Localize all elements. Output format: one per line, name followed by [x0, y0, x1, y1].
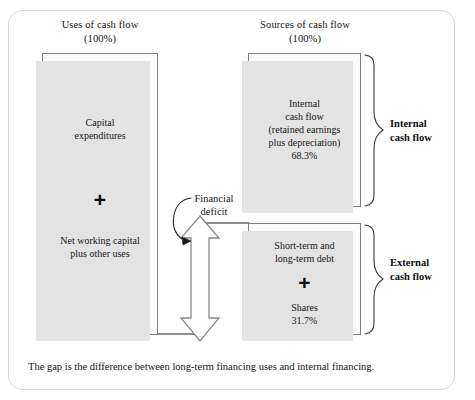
uses-column-heading: Uses of cash flow (100%) [38, 18, 162, 45]
uses-bar: Capital expenditures + Net working capit… [42, 53, 158, 335]
shares-label: Shares 31.7% [249, 301, 360, 327]
external-group-label: External cash flow [390, 256, 432, 283]
capital-expenditures-label: Capital expenditures [43, 116, 157, 142]
uses-heading-title: Uses of cash flow [62, 19, 139, 30]
external-cash-flow-bar: Short-term and long-term debt + Shares 3… [248, 223, 361, 335]
internal-cash-flow-bar: Internal cash flow (retained earnings pl… [248, 53, 361, 207]
uses-heading-subtitle: (100%) [38, 32, 162, 46]
uses-plus-icon: + [43, 189, 157, 210]
external-plus-icon: + [249, 272, 360, 293]
internal-group-label: Internal cash flow [390, 117, 432, 144]
debt-label: Short-term and long-term debt [249, 239, 360, 265]
internal-cash-flow-label: Internal cash flow (retained earnings pl… [249, 97, 360, 162]
sources-heading-title: Sources of cash flow [260, 19, 350, 30]
internal-cash-flow-percent: 68.3% [292, 150, 318, 161]
shares-percent: 31.7% [292, 315, 318, 326]
net-working-capital-label: Net working capital plus other uses [43, 234, 157, 260]
figure-caption: The gap is the difference between long-t… [28, 360, 374, 374]
financial-deficit-label: Financial deficit [176, 192, 252, 218]
diagram-canvas: Uses of cash flow (100%) Sources of cash… [0, 0, 475, 400]
sources-column-heading: Sources of cash flow (100%) [242, 18, 368, 45]
sources-heading-subtitle: (100%) [242, 32, 368, 46]
